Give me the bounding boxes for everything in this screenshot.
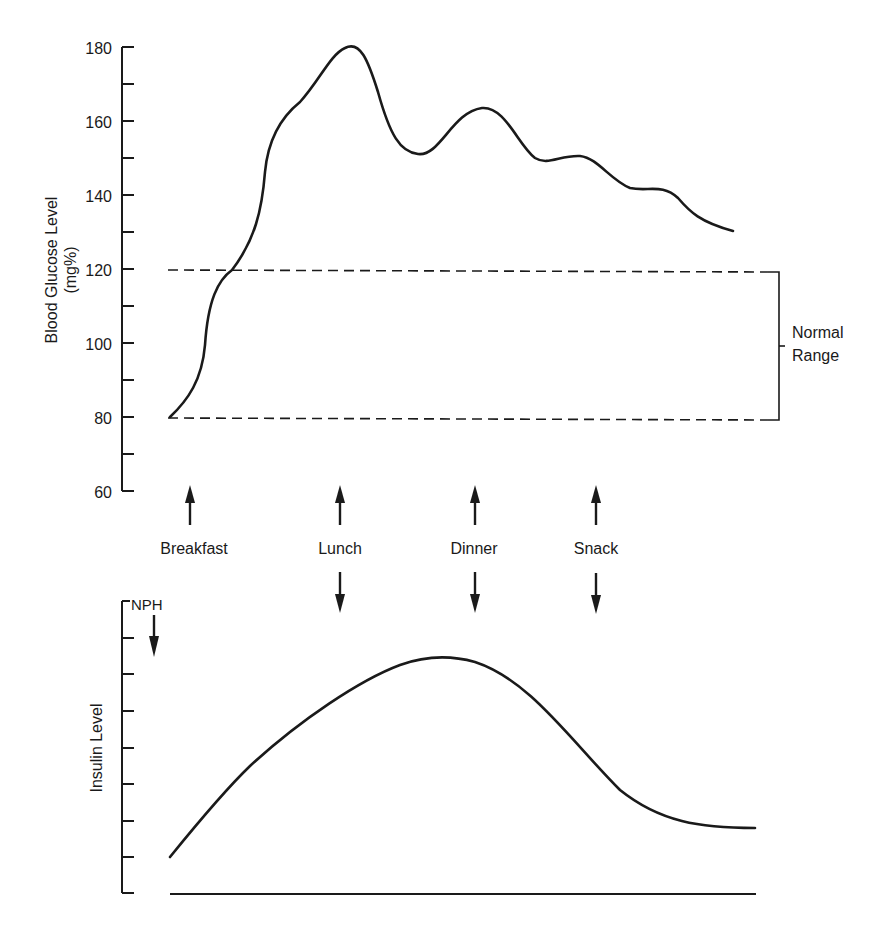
insulin-y-axis (122, 601, 134, 893)
tick-label: 80 (94, 410, 112, 427)
meal-label-lunch: Lunch (318, 540, 362, 557)
meal-label-breakfast: Breakfast (160, 540, 228, 557)
meal-label-snack: Snack (574, 540, 619, 557)
tick-label: 140 (85, 188, 112, 205)
normal-range-bracket (768, 272, 785, 420)
nph-label: NPH (131, 596, 163, 613)
normal-range-label-line1: Normal (792, 324, 844, 341)
meal-label-dinner: Dinner (450, 540, 498, 557)
glucose-curve (170, 46, 733, 417)
y-axis-label-line1: Blood Glucose Level (43, 197, 60, 344)
insulin-curve (170, 657, 755, 857)
insulin-axis-label: Insulin Level (88, 704, 105, 793)
nph-arrow (149, 615, 159, 657)
normal-range-lines (168, 270, 768, 420)
y-axis-label-line2: (mg%) (62, 246, 79, 293)
glucose-y-label: Blood Glucose Level (mg%) (43, 197, 79, 344)
glucose-insulin-diagram: 180 160 140 120 100 80 60 Blood Glucose … (0, 0, 894, 929)
normal-range-label-line2: Range (792, 347, 839, 364)
glucose-tick-labels: 180 160 140 120 100 80 60 (85, 40, 112, 501)
tick-label: 100 (85, 336, 112, 353)
tick-label: 60 (94, 484, 112, 501)
tick-label: 180 (85, 40, 112, 57)
meal-arrows-up (185, 485, 601, 525)
tick-label: 120 (85, 262, 112, 279)
meal-labels: Breakfast Lunch Dinner Snack (160, 540, 619, 557)
meal-arrows-down (335, 572, 601, 614)
glucose-y-axis (122, 47, 134, 491)
tick-label: 160 (85, 114, 112, 131)
insulin-y-label: Insulin Level (88, 704, 105, 793)
